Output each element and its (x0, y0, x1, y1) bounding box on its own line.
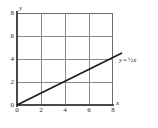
equation-annotation: y=½x (119, 56, 136, 65)
line-chart-figure: 8 6 4 2 0 0 2 4 6 8 y x y=½x (0, 0, 158, 128)
equation-equals-sign: = (123, 56, 127, 64)
data-line-y-equals-half-x (17, 53, 122, 105)
equation-x-term: x (133, 56, 136, 64)
equation-y-term: y (119, 56, 122, 64)
